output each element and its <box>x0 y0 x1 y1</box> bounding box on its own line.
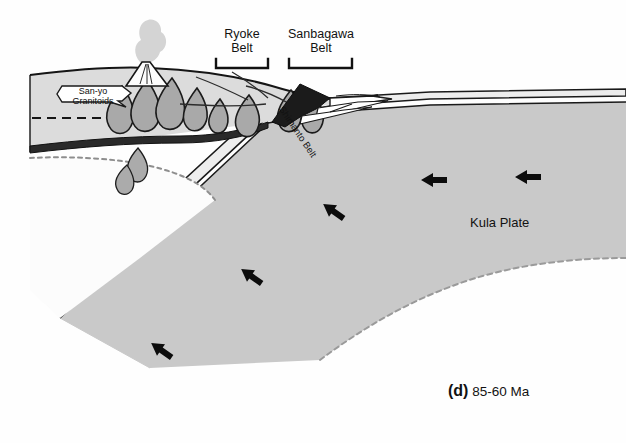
geologic-cross-section-figure: Ryoke Belt Sanbagawa Belt Shimanto Belt … <box>0 0 626 443</box>
cross-section-drawing <box>0 0 626 443</box>
bracket-sanbagawa <box>289 59 352 68</box>
sanyo-line2: Granitoids <box>64 96 122 106</box>
sanbagawa-belt-line2: Belt <box>280 41 362 55</box>
caption-age: 85-60 Ma <box>472 384 529 399</box>
volcanic-plume <box>135 20 166 64</box>
belt-brackets <box>216 59 352 68</box>
sanbagawa-belt-line1: Sanbagawa <box>280 27 362 41</box>
bracket-ryoke <box>216 59 268 68</box>
label-sanbagawa-belt: Sanbagawa Belt <box>280 27 362 55</box>
label-ryoke-belt: Ryoke Belt <box>206 27 278 55</box>
label-sanyo-granitoids: San-yo Granitoids <box>64 86 122 106</box>
ryoke-belt-line2: Belt <box>206 41 278 55</box>
figure-caption: (d) 85-60 Ma <box>448 382 529 400</box>
sanyo-line1: San-yo <box>64 86 122 96</box>
caption-panel-letter: (d) <box>448 382 468 399</box>
ryoke-belt-line1: Ryoke <box>206 27 278 41</box>
label-kula-plate: Kula Plate <box>470 215 529 230</box>
